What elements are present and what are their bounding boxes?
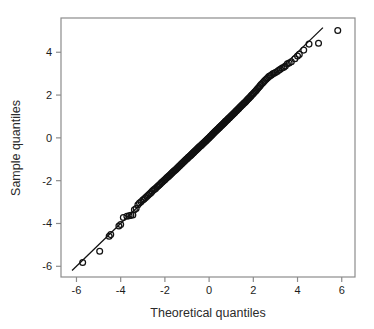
data-point bbox=[316, 40, 322, 46]
data-point bbox=[97, 248, 103, 254]
x-tick-label: 2 bbox=[250, 284, 256, 296]
x-tick-label: 0 bbox=[206, 284, 212, 296]
y-axis-ticks bbox=[56, 52, 61, 266]
x-tick-label: -4 bbox=[116, 284, 126, 296]
y-tick-label: -2 bbox=[42, 175, 52, 187]
data-point bbox=[120, 215, 126, 221]
qq-plot-figure: -6-4-20246 -6-4-2024 Theoretical quantil… bbox=[0, 0, 374, 329]
y-axis-tick-labels: -6-4-2024 bbox=[42, 46, 52, 272]
qq-plot-canvas: -6-4-20246 -6-4-2024 Theoretical quantil… bbox=[0, 0, 374, 329]
data-point bbox=[306, 41, 312, 47]
data-point bbox=[301, 47, 307, 53]
y-axis-title: Sample quantiles bbox=[9, 100, 23, 196]
y-tick-label: 4 bbox=[46, 46, 52, 58]
x-axis-ticks bbox=[76, 277, 341, 282]
x-tick-label: -2 bbox=[160, 284, 170, 296]
x-tick-label: 6 bbox=[339, 284, 345, 296]
qq-data-points bbox=[80, 28, 341, 266]
y-tick-label: -6 bbox=[42, 260, 52, 272]
x-axis-title: Theoretical quantiles bbox=[150, 306, 265, 320]
x-tick-label: 4 bbox=[294, 284, 300, 296]
data-point bbox=[335, 28, 341, 34]
x-axis-tick-labels: -6-4-20246 bbox=[72, 284, 345, 296]
y-tick-label: 0 bbox=[46, 132, 52, 144]
x-tick-label: -6 bbox=[72, 284, 82, 296]
y-tick-label: -4 bbox=[42, 217, 52, 229]
y-tick-label: 2 bbox=[46, 89, 52, 101]
